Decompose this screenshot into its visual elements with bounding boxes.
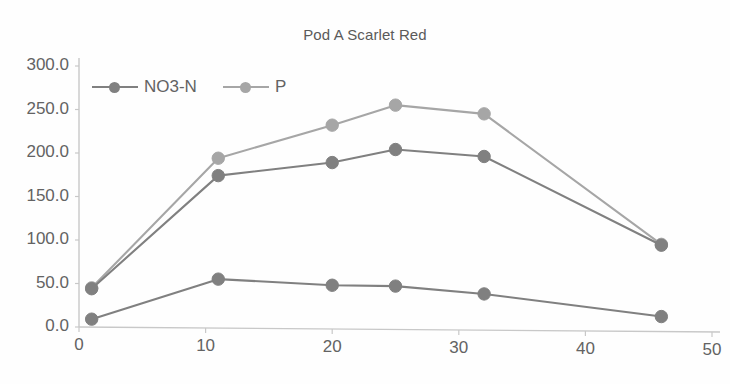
legend-dot-icon <box>109 82 120 93</box>
chart-data-point <box>389 280 401 292</box>
chart-data-point <box>478 150 490 162</box>
x-axis-tick-label: 10 <box>186 336 226 356</box>
chart-data-point <box>326 156 338 168</box>
legend-dot-icon <box>240 82 251 93</box>
chart-data-point <box>478 288 490 300</box>
y-axis-tick-label: 50.0 <box>7 273 69 293</box>
chart-container: Pod A Scarlet Red 0.050.0100.0150.0200.0… <box>0 0 730 384</box>
x-axis-ticks <box>79 327 712 337</box>
chart-data-point <box>326 119 338 131</box>
chart-data-point <box>85 313 97 325</box>
chart-data-point <box>389 99 401 111</box>
chart-series <box>85 143 667 295</box>
y-axis-tick-label: 100.0 <box>7 229 69 249</box>
legend-marker-icon <box>92 80 138 94</box>
x-axis-tick-label: 30 <box>439 338 479 358</box>
x-axis-tick-label: 20 <box>312 337 352 357</box>
chart-data-point <box>478 108 490 120</box>
chart-data-point <box>326 279 338 291</box>
chart-legend: NO3-NP <box>92 74 286 100</box>
chart-series <box>85 99 667 294</box>
y-axis-tick-label: 200.0 <box>7 142 69 162</box>
y-axis-tick-label: 300.0 <box>7 55 69 75</box>
legend-marker-icon <box>223 80 269 94</box>
chart-data-point <box>85 283 97 295</box>
chart-data-point <box>389 143 401 155</box>
chart-data-point <box>655 239 667 251</box>
chart-series <box>85 273 667 325</box>
legend-entry-p[interactable]: P <box>223 77 286 97</box>
chart-data-point <box>212 152 224 164</box>
x-axis-tick-label: 40 <box>565 339 605 359</box>
y-axis-tick-label: 150.0 <box>7 186 69 206</box>
y-axis-tick-label: 250.0 <box>7 99 69 119</box>
legend-label: P <box>275 77 286 97</box>
chart-data-point <box>212 169 224 181</box>
legend-label: NO3-N <box>144 77 197 97</box>
chart-data-point <box>655 310 667 322</box>
chart-data-point <box>212 273 224 285</box>
chart-plot-area <box>0 0 730 384</box>
x-axis-tick-label: 50 <box>692 340 730 360</box>
y-axis-tick-label: 0.0 <box>7 316 69 336</box>
x-axis-tick-label: 0 <box>59 335 99 355</box>
legend-entry-no3-n[interactable]: NO3-N <box>92 77 197 97</box>
